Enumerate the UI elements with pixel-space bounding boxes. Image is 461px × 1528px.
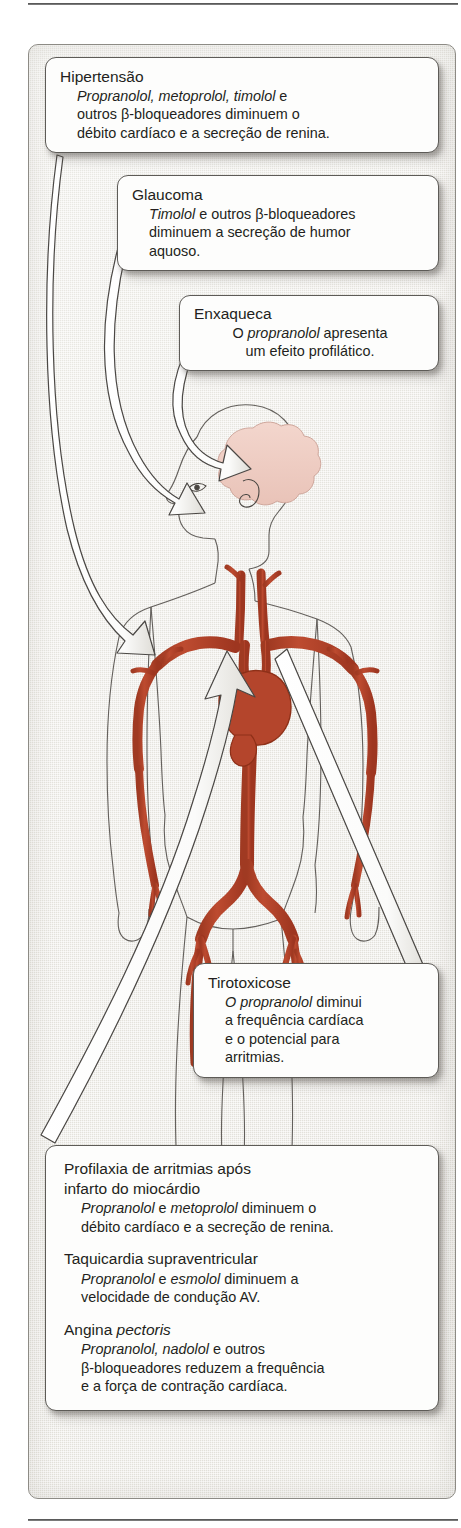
indication-profilaxia-arritmias: Profilaxia de arritmias após infarto do … (64, 1159, 424, 1236)
line3: aquoso. (149, 243, 200, 259)
drug-names: propranolol (248, 325, 320, 341)
title-line2: infarto do miocárdio (64, 1180, 200, 1197)
line3: débito cardíaco e a secreção de renina. (77, 125, 330, 141)
line1-pre: O (232, 325, 247, 341)
coracao-apice (231, 735, 257, 766)
line2: outros β-bloqueadores diminuem o (77, 106, 300, 122)
title-line1: Taquicardia supraventricular (64, 1250, 258, 1267)
body-line3: e a força de contração cardíaca. (81, 1378, 287, 1394)
drug-name-2: esmolol (171, 1271, 221, 1287)
drug-names: Propranolol, metoprolol, timolol (77, 88, 275, 104)
callout-bottom-indications[interactable]: Profilaxia de arritmias após infarto do … (45, 1145, 439, 1411)
line4: arritmias. (225, 1049, 284, 1065)
line3: e o potencial para (225, 1031, 339, 1047)
line2: diminuem a secreção de humor (149, 224, 351, 240)
drug-name-2: metoprolol (171, 1200, 238, 1216)
callout-title: Angina pectoris (64, 1320, 424, 1340)
drug-name-1: Propranolol (81, 1200, 155, 1216)
body-mid: e (155, 1200, 171, 1216)
callout-body: Propranolol, metoprolol, timolol e outro… (60, 87, 426, 143)
callout-body: O propranolol apresenta um efeito profil… (194, 324, 426, 361)
body-line2: β-bloqueadores reduzem a frequência (81, 1360, 324, 1376)
drug-names: Timolol (149, 206, 195, 222)
line1-rest: e outros β-bloqueadores (195, 206, 355, 222)
line1-rest: apresenta (320, 325, 388, 341)
callout-title: Tirotoxicose (208, 973, 426, 993)
title-italic: pectoris (117, 1321, 171, 1338)
callout-glaucoma[interactable]: Glaucoma Timolol e outros β-bloqueadores… (117, 175, 439, 271)
figure-frame: Hipertensão Propranolol, metoprolol, tim… (28, 44, 456, 1499)
line2: a frequência cardíaca (225, 1012, 363, 1028)
callout-title: Profilaxia de arritmias após infarto do … (64, 1159, 424, 1198)
callout-hipertensao[interactable]: Hipertensão Propranolol, metoprolol, tim… (45, 57, 439, 153)
title-line1: Profilaxia de arritmias após (64, 1160, 251, 1177)
drug-names: O propranolol (225, 994, 312, 1010)
callout-body: O propranolol diminui a frequência cardí… (208, 993, 426, 1067)
line1-rest: e (275, 88, 287, 104)
callout-enxaqueca[interactable]: Enxaqueca O propranolol apresenta um efe… (179, 295, 439, 371)
line2: um efeito profilático. (246, 343, 375, 359)
body-line2: débito cardíaco e a secreção de renina. (81, 1219, 334, 1235)
indication-taquicardia-supraventricular: Taquicardia supraventricular Propranolol… (64, 1249, 424, 1307)
body-rest: diminuem o (238, 1200, 316, 1216)
callout-body: Propranolol, nadolol e outros β-bloquead… (64, 1340, 424, 1396)
callout-body: Timolol e outros β-bloqueadores diminuem… (132, 205, 426, 261)
body-line2: velocidade de condução AV. (81, 1289, 260, 1305)
line1-rest: diminui (312, 994, 362, 1010)
body-mid: e (155, 1271, 171, 1287)
bottom-divider-rule (28, 1519, 458, 1521)
callout-tirotoxicose[interactable]: Tirotoxicose O propranolol diminui a fre… (193, 963, 439, 1078)
title-line1: Angina (64, 1321, 117, 1338)
callout-title: Enxaqueca (194, 304, 426, 324)
callout-title: Hipertensão (60, 67, 426, 87)
body-rest: e outros (209, 1341, 265, 1357)
indication-angina-pectoris: Angina pectoris Propranolol, nadolol e o… (64, 1320, 424, 1396)
callout-title: Glaucoma (132, 185, 426, 205)
callout-body: Propranolol e metoprolol diminuem o débi… (64, 1199, 424, 1236)
callout-body: Propranolol e esmolol diminuem a velocid… (64, 1270, 424, 1307)
top-divider-rule (28, 3, 458, 5)
body-rest: diminuem a (220, 1271, 298, 1287)
drug-name-1: Propranolol, nadolol (81, 1341, 209, 1357)
callout-title: Taquicardia supraventricular (64, 1249, 424, 1269)
drug-name-1: Propranolol (81, 1271, 155, 1287)
